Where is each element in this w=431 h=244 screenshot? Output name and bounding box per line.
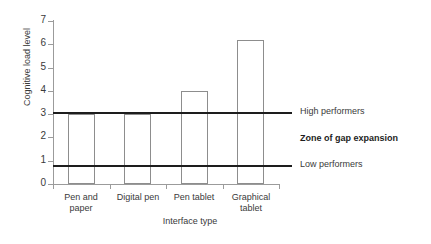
y-axis-tick-label: 5 [18,62,46,72]
x-axis-tick [166,184,167,189]
y-axis-tick-label: 2 [18,131,46,141]
y-axis-tick-label: 4 [18,85,46,95]
bar-pen-and-paper [68,114,95,184]
y-axis-tick [48,161,54,162]
reference-line-label: Low performers [300,159,363,169]
x-axis-tick [53,184,54,189]
x-axis-tick [223,184,224,189]
reference-line-high-performers [53,112,292,114]
y-axis-tick [48,114,54,115]
x-axis-category-label-line: Graphical [217,192,285,203]
x-axis-tick [110,184,111,189]
bar-digital-pen [124,114,151,184]
y-axis-tick-label: 1 [18,155,46,165]
x-axis-category-label-line: tablet [217,203,285,214]
y-axis-tick [48,137,54,138]
y-axis-tick [48,68,54,69]
reference-line-low-performers [53,165,292,167]
zone-of-gap-expansion-label: Zone of gap expansion [300,133,398,143]
y-axis-tick-label: 7 [18,15,46,25]
y-axis-tick-label: 3 [18,108,46,118]
reference-line-label: High performers [300,106,365,116]
x-axis-category-label: Graphicaltablet [217,192,285,214]
y-axis-tick [48,91,54,92]
y-axis-tick [48,44,54,45]
y-axis-tick [48,21,54,22]
x-axis-title: Interface type [130,216,250,226]
x-axis-category-label-line: paper [47,203,115,214]
x-axis-tick [279,184,280,189]
bar-pen-tablet [181,91,208,184]
y-axis-tick-label: 6 [18,38,46,48]
y-axis-tick-label: 0 [18,178,46,188]
cognitive-load-bar-chart: Cognitive load level 01234567 High perfo… [0,0,431,244]
